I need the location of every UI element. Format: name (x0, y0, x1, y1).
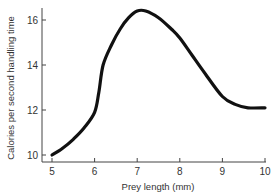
y-tick-label: 12 (27, 105, 39, 116)
y-tick-label: 14 (27, 60, 39, 71)
y-tick-label: 10 (27, 150, 39, 161)
y-tick-label: 16 (27, 15, 39, 26)
data-series-line (52, 10, 265, 155)
plot-area (52, 10, 265, 155)
axes: 101214165678910 (27, 8, 271, 177)
x-axis-title: Prey length (mm) (122, 181, 195, 192)
y-axis-title: Calories per second handling time (5, 16, 16, 160)
line-chart: 101214165678910 Prey length (mm) Calorie… (0, 0, 279, 196)
x-tick-label: 8 (177, 166, 183, 177)
x-tick-label: 7 (134, 166, 140, 177)
x-tick-label: 5 (49, 166, 55, 177)
x-tick-label: 10 (259, 166, 271, 177)
x-tick-label: 6 (92, 166, 98, 177)
x-tick-label: 9 (220, 166, 226, 177)
